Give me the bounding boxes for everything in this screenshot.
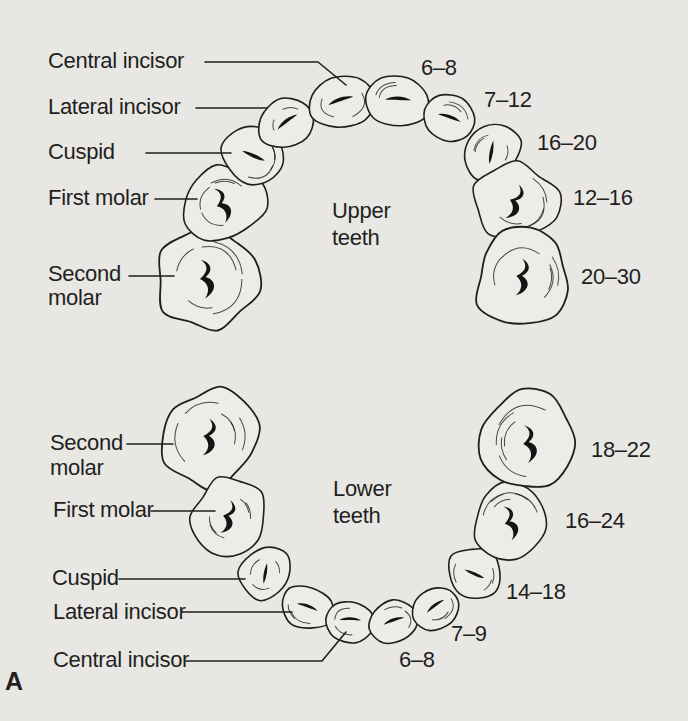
age-upper-lateral-incisor: 7–12 bbox=[484, 87, 532, 112]
label-lower-central-incisor: Central incisor bbox=[53, 647, 189, 672]
label-lower-cuspid: Cuspid bbox=[52, 565, 119, 590]
label-upper-cuspid: Cuspid bbox=[48, 139, 115, 164]
lower-title-line2: teeth bbox=[333, 503, 380, 528]
age-lower-first-molar: 16–24 bbox=[565, 508, 625, 533]
label-upper-lateral-incisor: Lateral incisor bbox=[48, 94, 180, 119]
age-upper-second-molar: 20–30 bbox=[581, 264, 641, 289]
teeth-eruption-diagram: Central incisor Lateral incisor Cuspid F… bbox=[0, 0, 688, 721]
age-upper-cuspid: 16–20 bbox=[537, 130, 597, 155]
label-lower-second-molar-line1: Second bbox=[50, 430, 123, 455]
label-upper-central-incisor: Central incisor bbox=[48, 48, 184, 73]
label-lower-lateral-incisor: Lateral incisor bbox=[53, 599, 185, 624]
age-lower-central-incisor: 6–8 bbox=[399, 647, 435, 672]
label-upper-second-molar-line1: Second bbox=[48, 261, 121, 286]
upper-title-line2: teeth bbox=[332, 225, 379, 250]
age-lower-second-molar: 18–22 bbox=[591, 437, 651, 462]
label-lower-first-molar: First molar bbox=[53, 497, 154, 522]
age-lower-cuspid: 14–18 bbox=[506, 579, 566, 604]
label-lower-second-molar-line2: molar bbox=[50, 455, 104, 480]
figure-label: A bbox=[5, 667, 23, 695]
upper-title-line1: Upper bbox=[332, 198, 390, 223]
label-upper-second-molar-line2: molar bbox=[48, 285, 102, 310]
age-lower-lateral-incisor: 7–9 bbox=[451, 621, 487, 646]
label-upper-first-molar: First molar bbox=[48, 185, 149, 210]
age-upper-central-incisor: 6–8 bbox=[421, 55, 457, 80]
figure-panel: Central incisor Lateral incisor Cuspid F… bbox=[0, 0, 688, 721]
age-upper-first-molar: 12–16 bbox=[573, 185, 633, 210]
lower-title-line1: Lower bbox=[333, 476, 391, 501]
